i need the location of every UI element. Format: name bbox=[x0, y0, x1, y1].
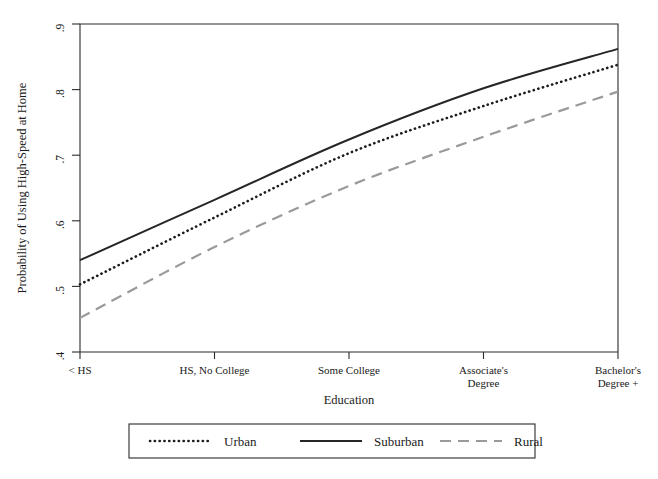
series-line-rural bbox=[80, 92, 618, 318]
y-tick-label: .8 bbox=[54, 89, 66, 98]
y-tick-label: .9 bbox=[54, 23, 66, 32]
series-group bbox=[80, 49, 618, 318]
y-tick-label: .7 bbox=[54, 155, 66, 164]
series-line-urban bbox=[80, 65, 618, 285]
y-tick-label: .4 bbox=[54, 351, 66, 360]
y-tick-label: .6 bbox=[54, 220, 66, 229]
plot-border bbox=[80, 24, 618, 352]
x-category-label: Some College bbox=[318, 364, 380, 376]
legend-label-rural: Rural bbox=[514, 434, 543, 449]
series-line-suburban bbox=[80, 49, 618, 260]
x-axis-title: Education bbox=[324, 393, 375, 407]
legend-label-suburban: Suburban bbox=[374, 434, 424, 449]
x-category-label: Bachelor's bbox=[595, 364, 641, 376]
y-axis-title: Probability of Using High-Speed at Home bbox=[15, 82, 29, 293]
y-tick-label: .5 bbox=[54, 286, 66, 295]
chart-legend: UrbanSuburbanRural bbox=[129, 424, 543, 458]
x-category-label: Degree + bbox=[598, 377, 639, 389]
x-category-label: < HS bbox=[68, 364, 91, 376]
x-category-label: HS, No College bbox=[180, 364, 250, 376]
legend-label-urban: Urban bbox=[224, 434, 257, 449]
x-category-label: Associate's bbox=[459, 364, 508, 376]
x-axis-ticks: < HSHS, No CollegeSome CollegeAssociate'… bbox=[68, 352, 640, 389]
chart-canvas: .4.5.6.7.8.9 < HSHS, No CollegeSome Coll… bbox=[0, 0, 658, 479]
plot-frame bbox=[80, 24, 618, 352]
x-category-label: Degree bbox=[468, 377, 500, 389]
chart-figure: .4.5.6.7.8.9 < HSHS, No CollegeSome Coll… bbox=[0, 0, 658, 479]
y-axis-ticks: .4.5.6.7.8.9 bbox=[54, 23, 80, 360]
